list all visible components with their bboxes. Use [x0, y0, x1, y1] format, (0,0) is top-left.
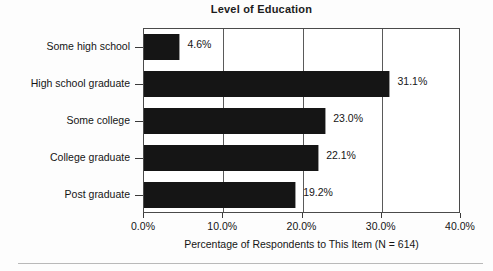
x-axis-tick-label: 20.0%	[272, 220, 332, 232]
bar-value-label: 23.0%	[333, 112, 363, 124]
bar-value-label: 22.1%	[326, 149, 356, 161]
bar-row: 31.1%	[144, 66, 461, 103]
bar[interactable]	[144, 182, 296, 208]
bar-row: 23.0%	[144, 103, 461, 140]
category-label: College graduate	[0, 151, 130, 163]
bar[interactable]	[144, 108, 326, 134]
bar[interactable]	[144, 34, 180, 60]
bar-row: 19.2%	[144, 177, 461, 214]
x-axis-tick-label: 0.0%	[113, 220, 173, 232]
bar[interactable]	[144, 145, 319, 171]
x-axis-tick	[302, 213, 303, 218]
category-label: High school graduate	[0, 77, 130, 89]
x-axis-tick	[381, 213, 382, 218]
bar-row: 4.6%	[144, 29, 461, 66]
y-axis-tick	[135, 158, 143, 159]
x-axis-tick-label: 40.0%	[430, 220, 490, 232]
bar-value-label: 19.2%	[303, 186, 333, 198]
y-axis-tick	[135, 195, 143, 196]
bar-row: 22.1%	[144, 140, 461, 177]
category-label: Some college	[0, 114, 130, 126]
category-label: Some high school	[0, 40, 130, 52]
x-axis-tick	[143, 213, 144, 218]
bar[interactable]	[144, 71, 390, 97]
y-axis-tick	[135, 47, 143, 48]
x-axis-title: Percentage of Respondents to This Item (…	[143, 238, 460, 250]
x-axis-tick	[460, 213, 461, 218]
bar-value-label: 31.1%	[397, 75, 427, 87]
plot-area: 4.6%31.1%23.0%22.1%19.2%	[143, 28, 460, 213]
x-axis-tick-label: 10.0%	[192, 220, 252, 232]
scan-artifact-line	[18, 263, 483, 264]
category-label: Post graduate	[0, 188, 130, 200]
y-axis-tick	[135, 121, 143, 122]
x-axis-tick-label: 30.0%	[351, 220, 411, 232]
chart-title: Level of Education	[0, 3, 493, 15]
y-axis-tick	[135, 84, 143, 85]
bar-chart: Level of Education Some high schoolHigh …	[0, 0, 493, 271]
bar-value-label: 4.6%	[187, 38, 211, 50]
x-axis-tick	[222, 213, 223, 218]
